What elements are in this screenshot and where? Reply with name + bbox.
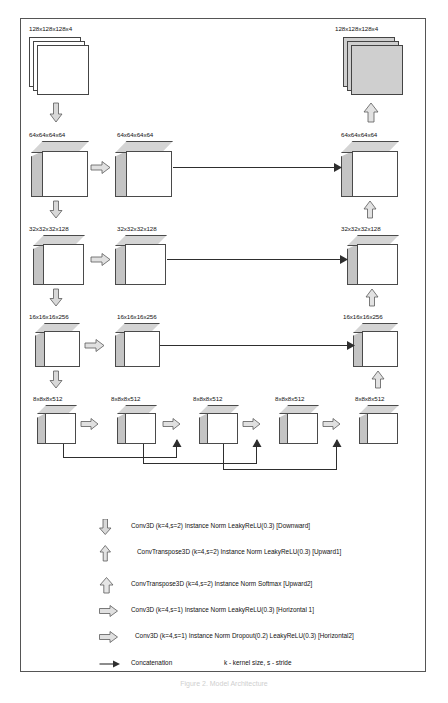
legend-text-downward: Conv3D (k=4,s=2) Instance Norm LeakyReLU… (131, 522, 310, 529)
down-block-arrow-icon (99, 519, 125, 533)
line-arrow-icon (99, 656, 125, 670)
legend-text-concatenation: Concatenation (131, 659, 172, 666)
right-block-arrow-icon (99, 603, 125, 617)
legend-text-upward2: ConvTranspose3D (k=4,s=2) Instance Norm … (131, 580, 312, 587)
up-wide-block-arrow-icon (99, 577, 125, 591)
legend-text-horizontal2: Conv3D (k=4,s=1) Instance Norm Dropout(0… (135, 632, 354, 639)
diagram-frame: 128x128x128x4 128x128x128x4 64x64x64x64 … (20, 18, 426, 672)
legend: Conv3D (k=4,s=2) Instance Norm LeakyReLU… (21, 19, 425, 671)
figure-caption: Figure 2. Model Architecture (0, 680, 448, 687)
legend-text-upward1: ConvTranspose3D (k=4,s=2) Instance Norm … (137, 548, 341, 555)
legend-text-notation: k - kernel size, s - stride (224, 659, 291, 666)
right-block-arrow-icon (99, 629, 125, 643)
up-thin-block-arrow-icon (99, 545, 125, 559)
legend-text-horizontal1: Conv3D (k=4,s=1) Instance Norm LeakyReLU… (131, 606, 314, 613)
